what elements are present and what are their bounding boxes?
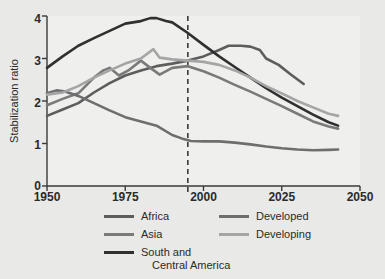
legend-label-africa: Africa	[141, 210, 170, 222]
legend-label-developing: Developing	[256, 228, 311, 240]
ytick-label-4: 4	[34, 12, 41, 26]
legend-label-asia: Asia	[141, 228, 163, 240]
chart-figure: 0 1 2 3 4 1950 1975 2000 2025 2050 Stabi…	[0, 0, 385, 279]
ytick-label-2: 2	[34, 96, 41, 110]
ytick-label-3: 3	[34, 54, 41, 68]
legend-label-developed: Developed	[256, 210, 309, 222]
plot-background	[47, 16, 360, 186]
ytick-label-1: 1	[34, 138, 41, 152]
y-axis-title: Stabilization ratio	[8, 59, 20, 143]
legend-label-central-america: Central America	[152, 259, 231, 271]
xtick-label-2000: 2000	[190, 190, 217, 204]
legend-label-south-and: South and	[141, 246, 191, 258]
xtick-label-1975: 1975	[112, 190, 139, 204]
xtick-label-2050: 2050	[347, 190, 374, 204]
stabilization-ratio-line-chart: 0 1 2 3 4 1950 1975 2000 2025 2050 Stabi…	[0, 0, 385, 279]
xtick-label-1950: 1950	[34, 190, 61, 204]
xtick-label-2025: 2025	[268, 190, 295, 204]
